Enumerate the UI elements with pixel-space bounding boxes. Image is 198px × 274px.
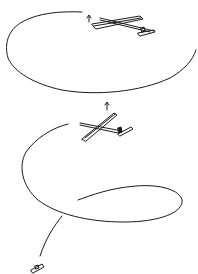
glider-lower: [80, 113, 133, 141]
direction-arrow-lower: [105, 102, 109, 110]
glider-upper: [92, 16, 155, 36]
flight-path-diagram: [0, 0, 198, 274]
direction-arrow-upper: [87, 15, 91, 22]
flight-path-lower-spiral: [22, 124, 182, 222]
flight-path-upper-loop: [7, 12, 196, 93]
tail-fragment-bottom: [31, 264, 44, 273]
flight-path-descent: [40, 216, 62, 256]
illustration-canvas: [0, 0, 198, 274]
